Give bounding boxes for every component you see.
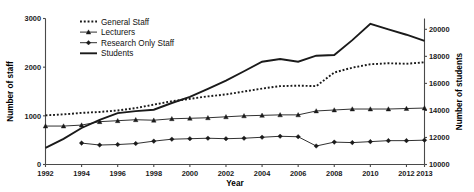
marker-research-only-staff xyxy=(79,141,84,146)
x-ticklabel: 2012 xyxy=(398,169,414,178)
marker-research-only-staff xyxy=(422,138,427,143)
marker-research-only-staff xyxy=(97,143,102,148)
marker-research-only-staff xyxy=(368,139,373,144)
marker-research-only-staff xyxy=(278,134,283,139)
marker-research-only-staff xyxy=(314,144,319,149)
marker-research-only-staff xyxy=(332,140,337,145)
series-line-general-staff xyxy=(46,62,425,115)
y-ticklabel-left: 1000 xyxy=(25,112,41,121)
x-ticklabel: 2000 xyxy=(182,169,198,178)
marker-research-only-staff xyxy=(206,136,211,141)
y-ticklabel-left: 2000 xyxy=(25,63,41,72)
legend-label-research-only-staff: Research Only Staff xyxy=(101,39,175,48)
marker-research-only-staff xyxy=(350,140,355,145)
marker-research-only-staff xyxy=(386,138,391,143)
legend-label-general-staff: General Staff xyxy=(101,18,150,27)
marker-research-only-staff xyxy=(151,139,156,144)
marker-research-only-staff xyxy=(115,142,120,147)
x-ticklabel: 2010 xyxy=(362,169,378,178)
y-ticklabel-right: 14000 xyxy=(429,106,450,115)
marker-research-only-staff xyxy=(242,136,247,141)
y-ticklabel-right: 16000 xyxy=(429,79,450,88)
x-ticklabel: 2004 xyxy=(254,169,271,178)
x-axis-title: Year xyxy=(226,179,244,188)
x-ticklabel: 1994 xyxy=(73,169,90,178)
x-ticklabel: 1996 xyxy=(109,169,125,178)
series-line-lecturers xyxy=(46,108,425,126)
chart-container: 0100020003000100001200014000160001800020… xyxy=(0,0,474,192)
x-ticklabel: 2008 xyxy=(326,169,342,178)
legend-marker-research-only-staff xyxy=(86,40,91,45)
y-ticklabel-left: 3000 xyxy=(25,14,41,23)
x-ticklabel: 1998 xyxy=(146,169,162,178)
x-ticklabel: 2002 xyxy=(218,169,234,178)
y-ticklabel-right: 20000 xyxy=(429,25,450,34)
marker-research-only-staff xyxy=(170,137,175,142)
marker-research-only-staff xyxy=(133,141,138,146)
marker-research-only-staff xyxy=(224,136,229,141)
line-chart: 0100020003000100001200014000160001800020… xyxy=(0,0,474,192)
marker-research-only-staff xyxy=(188,136,193,141)
legend-label-students: Students xyxy=(101,49,133,58)
marker-research-only-staff xyxy=(404,138,409,143)
y-axis-title-right: Number of students xyxy=(455,52,464,130)
y-axis-title-left: Number of staff xyxy=(6,61,15,122)
x-ticklabel: 1992 xyxy=(37,169,53,178)
y-ticklabel-right: 18000 xyxy=(429,52,450,61)
series-line-research-only-staff xyxy=(82,136,425,146)
marker-research-only-staff xyxy=(296,134,301,139)
x-ticklabel: 2013 xyxy=(416,169,432,178)
x-ticklabel: 2006 xyxy=(290,169,306,178)
marker-research-only-staff xyxy=(260,135,265,140)
legend-label-lecturers: Lecturers xyxy=(101,28,135,37)
y-ticklabel-right: 12000 xyxy=(429,133,450,142)
